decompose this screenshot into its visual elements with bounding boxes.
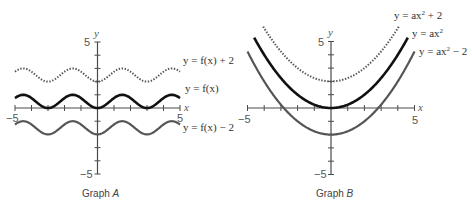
graph-a: y x 5 −5 −5 5 y = f(x) + 2 y = f(x) y = … <box>6 27 234 199</box>
graph-b-y-max-label: 5 <box>318 36 324 48</box>
graph-b-label-ax2: y = ax2 <box>412 27 444 39</box>
graph-a-x-axis-name: x <box>183 101 189 113</box>
graph-b-x-min-label: −5 <box>238 113 251 125</box>
graph-b: y x 5 −5 −5 5 y = ax2 + 2 y = ax2 y = ax… <box>238 9 467 199</box>
graph-a-label-f: y = f(x) <box>185 82 219 95</box>
graph-a-label-f-minus-2: y = f(x) − 2 <box>183 121 234 134</box>
graph-b-label-ax2-plus-2: y = ax2 + 2 <box>394 9 442 21</box>
graph-a-label-f-plus-2: y = f(x) + 2 <box>183 54 234 67</box>
graph-a-y-min-label: −5 <box>80 168 93 180</box>
figure: y x 5 −5 −5 5 y = f(x) + 2 y = f(x) y = … <box>0 0 472 207</box>
graph-b-x-axis-name: x <box>417 101 423 113</box>
graph-b-x-max-label: 5 <box>412 114 418 126</box>
graph-b-caption: Graph B <box>316 188 354 199</box>
graph-b-y-min-label: −5 <box>314 168 327 180</box>
graph-a-y-max-label: 5 <box>84 36 90 48</box>
graph-b-y-axis-name: y <box>327 26 333 38</box>
graph-a-y-axis-name: y <box>93 27 99 39</box>
graph-b-label-ax2-minus-2: y = ax2 − 2 <box>419 45 467 57</box>
graph-a-caption: Graph A <box>82 188 120 199</box>
